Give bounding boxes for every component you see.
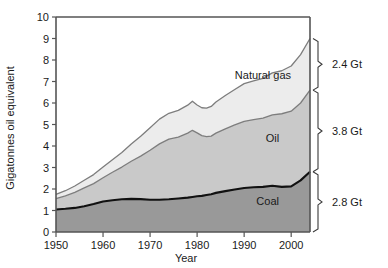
y-axis-title: Gigatonnes oil equivalent (4, 66, 16, 190)
y-tick-label: 1 (43, 205, 49, 217)
bracket-label-coal: 2.8 Gt (332, 196, 362, 208)
x-tick-label: 1970 (138, 239, 162, 251)
y-axis-ticks: 012345678910 (37, 11, 56, 238)
y-tick-label: 2 (43, 183, 49, 195)
bracket-label-natural-gas: 2.4 Gt (332, 58, 362, 70)
series-label-coal: Coal (256, 195, 279, 207)
chart-figure: 012345678910 195019601970198019902000 Gi… (0, 0, 388, 268)
y-tick-label: 0 (43, 226, 49, 238)
y-tick-label: 4 (43, 140, 49, 152)
x-tick-label: 1960 (91, 239, 115, 251)
x-tick-label: 2000 (279, 239, 303, 251)
y-tick-label: 5 (43, 119, 49, 131)
bracket-oil (313, 90, 322, 172)
series-label-natural-gas: Natural gas (235, 69, 292, 81)
bracket-natural-gas (313, 39, 322, 91)
series-label-oil: Oil (266, 132, 279, 144)
bracket-label-oil: 3.8 Gt (332, 125, 362, 137)
y-tick-label: 6 (43, 97, 49, 109)
y-tick-label: 10 (37, 11, 49, 23)
bracket-coal (313, 172, 322, 232)
x-axis-ticks: 195019601970198019902000 (44, 232, 304, 251)
x-tick-label: 1950 (44, 239, 68, 251)
x-tick-label: 1990 (232, 239, 256, 251)
y-tick-label: 8 (43, 54, 49, 66)
end-value-brackets: 2.4 Gt3.8 Gt2.8 Gt (313, 39, 362, 233)
y-tick-label: 3 (43, 162, 49, 174)
y-tick-label: 9 (43, 33, 49, 45)
stacked-area-chart: 012345678910 195019601970198019902000 Gi… (0, 0, 388, 268)
x-tick-label: 1980 (185, 239, 209, 251)
x-axis-title: Year (175, 252, 198, 264)
y-tick-label: 7 (43, 76, 49, 88)
